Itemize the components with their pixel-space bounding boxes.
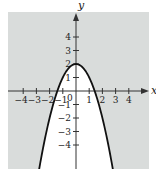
y-tick-label: −3	[58, 127, 72, 137]
x-axis-label: x	[151, 84, 156, 97]
x-tick-label: −2	[41, 95, 54, 105]
y-tick-label: 3	[65, 46, 71, 56]
y-tick-label: −4	[58, 140, 72, 150]
graph: −4−3−2−11234−4−3−2−11234 x y 0	[0, 0, 156, 169]
y-tick-label: 4	[65, 32, 71, 42]
x-tick-label: 1	[86, 95, 92, 105]
origin-label: 0	[67, 93, 73, 103]
x-tick-label: 2	[100, 95, 106, 105]
x-tick-label: 3	[113, 95, 119, 105]
x-tick-label: −4	[15, 95, 29, 105]
y-tick-label: 1	[65, 73, 71, 83]
x-tick-label: −3	[28, 95, 42, 105]
y-axis-label: y	[77, 0, 85, 12]
x-tick-label: 4	[126, 95, 132, 105]
y-tick-label: −2	[58, 113, 71, 123]
